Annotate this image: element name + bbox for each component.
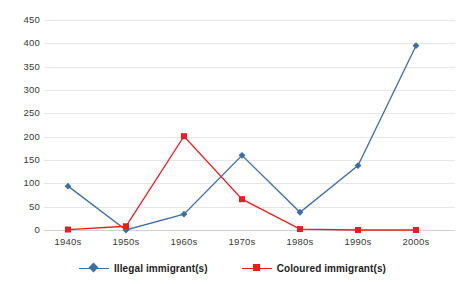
legend-entry-coloured-immigrants[interactable]: Coloured immigrant(s) (242, 263, 386, 274)
series-line (68, 136, 416, 230)
diamond-marker-icon (89, 263, 99, 273)
x-tick-label: 1960s (156, 236, 212, 248)
legend-swatch-coloured-immigrants (242, 263, 272, 273)
chart-legend: Illegal immigrant(s) Coloured immigrant(… (0, 258, 465, 278)
x-tick-label: 1940s (40, 236, 96, 248)
square-marker[interactable] (123, 223, 129, 229)
series-1 (65, 42, 420, 233)
square-marker[interactable] (355, 227, 361, 233)
x-axis: 1940s1950s1960s1970s1980s1990s2000s (0, 236, 465, 254)
square-marker-icon (253, 264, 260, 271)
square-marker[interactable] (239, 196, 245, 202)
diamond-marker[interactable] (413, 42, 420, 49)
square-marker[interactable] (181, 133, 187, 139)
legend-label-illegal-immigrants: Illegal immigrant(s) (114, 263, 208, 274)
legend-entry-illegal-immigrants[interactable]: Illegal immigrant(s) (79, 263, 208, 274)
square-marker[interactable] (297, 226, 303, 232)
square-marker[interactable] (65, 227, 71, 233)
x-tick-label: 1950s (98, 236, 154, 248)
x-tick-label: 1980s (272, 236, 328, 248)
x-tick-label: 2000s (388, 236, 444, 248)
line-chart: 050100150200250300350400450 1940s1950s19… (0, 0, 465, 284)
legend-label-coloured-immigrants: Coloured immigrant(s) (277, 263, 386, 274)
legend-swatch-illegal-immigrants (79, 263, 109, 273)
x-tick-label: 1990s (330, 236, 386, 248)
x-tick-label: 1970s (214, 236, 270, 248)
series-line (68, 46, 416, 230)
square-marker[interactable] (413, 227, 419, 233)
